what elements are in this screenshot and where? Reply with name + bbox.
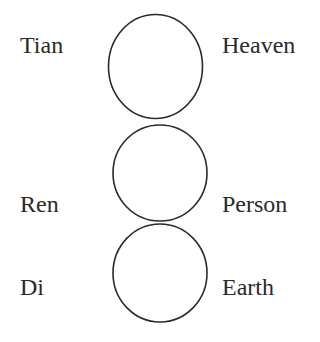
person-circle bbox=[113, 125, 207, 221]
label-earth: Earth bbox=[222, 275, 274, 299]
heaven-circle bbox=[109, 15, 203, 119]
label-heaven: Heaven bbox=[222, 33, 295, 57]
earth-circle bbox=[113, 224, 207, 322]
label-ren: Ren bbox=[20, 192, 59, 216]
label-person: Person bbox=[222, 192, 287, 216]
label-di: Di bbox=[20, 275, 44, 299]
label-tian: Tian bbox=[20, 33, 63, 57]
